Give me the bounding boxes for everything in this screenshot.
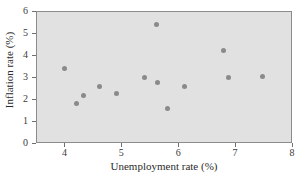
x-tick-label: 5 [111,147,131,159]
y-tick [32,99,36,100]
data-points-layer [37,12,291,142]
data-point [221,48,226,53]
data-point [226,75,231,80]
y-tick [32,143,36,144]
data-point [260,74,265,79]
y-tick [32,33,36,34]
data-point [182,84,187,89]
data-point [155,80,160,85]
data-point [154,22,159,27]
data-point [62,66,67,71]
x-axis-title: Unemployment rate (%) [36,160,292,172]
data-point [142,75,147,80]
scatter-plot-figure: 45678 0123456 Unemployment rate (%) Infl… [0,0,304,177]
x-tick-label: 4 [54,147,74,159]
plot-area [36,11,292,143]
data-point [74,101,79,106]
y-tick [32,121,36,122]
y-tick [32,77,36,78]
data-point [97,84,102,89]
data-point [165,106,170,111]
x-tick-label: 6 [168,147,188,159]
data-point [81,93,86,98]
y-tick [32,55,36,56]
y-axis-title: Inflation rate (%) [3,5,15,135]
data-point [114,91,119,96]
y-tick-label: 0 [12,138,28,148]
x-tick-label: 7 [225,147,245,159]
y-tick [32,11,36,12]
x-tick-label: 8 [282,147,302,159]
